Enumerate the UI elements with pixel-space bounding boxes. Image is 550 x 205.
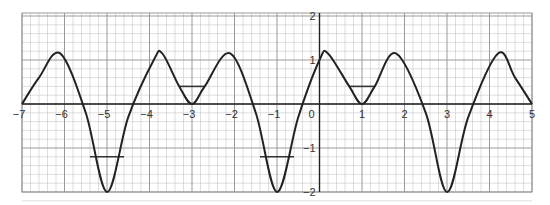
y-tick-label: −2 bbox=[303, 186, 316, 198]
x-tick-label: 5 bbox=[529, 108, 535, 120]
x-tick-label: −6 bbox=[55, 108, 68, 120]
x-tick-label: −2 bbox=[225, 108, 238, 120]
x-tick-label: −5 bbox=[98, 108, 111, 120]
function-graph: −7−6−5−4−3−2−1012345 −2−112 bbox=[0, 0, 550, 205]
y-tick-label: −1 bbox=[303, 142, 316, 154]
x-tick-label: 3 bbox=[444, 108, 450, 120]
x-tick-label: 2 bbox=[401, 108, 407, 120]
x-tick-labels: −7−6−5−4−3−2−1012345 bbox=[13, 108, 535, 120]
x-tick-label: 4 bbox=[486, 108, 492, 120]
y-tick-label: 2 bbox=[309, 10, 315, 22]
x-tick-label: −4 bbox=[140, 108, 153, 120]
x-tick-label: −1 bbox=[268, 108, 281, 120]
x-tick-label: 1 bbox=[359, 108, 365, 120]
x-tick-label: −7 bbox=[13, 108, 26, 120]
x-tick-label: −3 bbox=[183, 108, 196, 120]
x-tick-label: 0 bbox=[308, 108, 314, 120]
y-tick-label: 1 bbox=[309, 54, 315, 66]
